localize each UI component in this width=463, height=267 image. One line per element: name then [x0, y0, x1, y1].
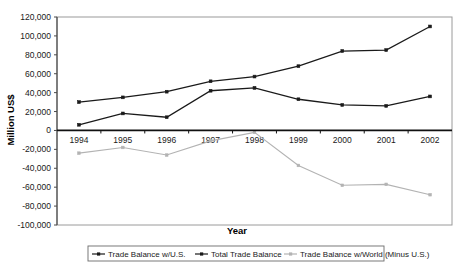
data-point [385, 104, 388, 107]
line-chart: 120,000100,00080,00060,00040,00020,0000-… [0, 0, 463, 267]
data-point [253, 131, 256, 134]
data-point [165, 154, 168, 157]
legend-marker [97, 252, 100, 255]
legend-label: Trade Balance w/World (Minus U.S.) [300, 250, 430, 259]
y-tick-label: -80,000 [22, 201, 51, 211]
y-tick-label: 80,000 [25, 50, 51, 60]
x-tick-label: 1999 [289, 135, 308, 145]
y-axis-title: Million US$ [5, 94, 16, 146]
x-tick-label: 2000 [333, 135, 352, 145]
data-point [122, 146, 125, 149]
data-point [209, 80, 212, 83]
plot-area [57, 17, 452, 225]
legend-marker [200, 252, 203, 255]
legend-label: Trade Balance w/U.S. [108, 250, 186, 259]
data-point [121, 96, 124, 99]
data-point [253, 75, 256, 78]
legend-item-3[interactable]: Trade Balance w/World (Minus U.S.) [284, 250, 430, 259]
data-point [341, 104, 344, 107]
data-point [385, 183, 388, 186]
x-axis-title: Year [227, 225, 247, 236]
chart-legend: Trade Balance w/U.S.Total Trade BalanceT… [88, 246, 430, 261]
data-point [297, 98, 300, 101]
data-point [165, 90, 168, 93]
data-point [209, 140, 212, 143]
data-point [341, 184, 344, 187]
y-tick-label: 40,000 [25, 88, 51, 98]
y-tick-label: 20,000 [25, 107, 51, 117]
x-tick-label: 1994 [69, 135, 88, 145]
chart-container: 120,000100,00080,00060,00040,00020,0000-… [0, 0, 463, 267]
y-tick-label: -40,000 [22, 163, 51, 173]
y-tick-label: -20,000 [22, 144, 51, 154]
x-tick-label: 1996 [157, 135, 176, 145]
data-point [429, 95, 432, 98]
data-point [78, 101, 81, 104]
data-point [297, 164, 300, 167]
x-tick-label: 2002 [421, 135, 440, 145]
data-point [429, 25, 432, 28]
legend-marker [289, 252, 292, 255]
y-tick-label: 60,000 [25, 69, 51, 79]
y-tick-label: 0 [46, 125, 51, 135]
y-tick-label: -100,000 [17, 220, 51, 230]
plot-frame [57, 17, 452, 225]
data-point [121, 112, 124, 115]
y-tick-label: 120,000 [20, 12, 51, 22]
y-tick-label: 100,000 [20, 31, 51, 41]
data-point [209, 89, 212, 92]
data-point [78, 152, 81, 155]
data-point [297, 65, 300, 68]
legend-label: Total Trade Balance [211, 250, 282, 259]
data-point [78, 123, 81, 126]
data-point [165, 116, 168, 119]
data-point [341, 50, 344, 53]
data-point [253, 87, 256, 90]
data-point [429, 193, 432, 196]
x-tick-label: 2001 [377, 135, 396, 145]
x-tick-label: 1995 [113, 135, 132, 145]
y-axis-ticks: 120,000100,00080,00060,00040,00020,0000-… [17, 12, 57, 230]
y-tick-label: -60,000 [22, 182, 51, 192]
data-point [385, 49, 388, 52]
